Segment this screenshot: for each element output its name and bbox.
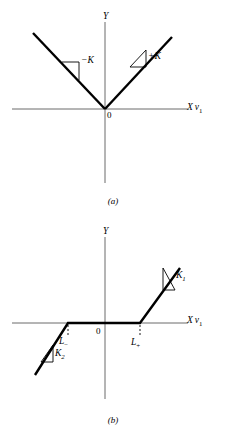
upper-gain-label: K1: [176, 271, 186, 283]
y-axis-label-b: Y: [103, 227, 108, 237]
x-axis-label-sub-b: 1: [199, 320, 202, 327]
x-axis-label-sub-a: 1: [199, 107, 202, 114]
figure-page: Y Xv1 0 −K +K (a) Y Xv1 0 K1 K2 L−: [0, 0, 226, 439]
origin-label-a: 0: [107, 111, 112, 120]
upper-gain-subscript: 1: [182, 275, 185, 282]
x-axis-label-a: Xv1: [187, 103, 202, 115]
positive-threshold-subscript: +: [136, 342, 140, 349]
slope-triangle-k2: [41, 345, 53, 362]
x-axis-label-b: Xv1: [187, 316, 202, 328]
panel-a: Y Xv1 0 −K +K (a): [0, 0, 226, 215]
negative-gain-label: −K: [81, 56, 94, 66]
slope-triangle-positive-k: [130, 50, 146, 67]
lower-gain-label: K2: [55, 349, 65, 361]
caption-b: (b): [0, 415, 226, 425]
y-axis-label-a: Y: [103, 12, 108, 22]
panel-b: Y Xv1 0 K1 K2 L− L+ (b): [0, 215, 226, 439]
x-axis-label-main-b: X: [187, 315, 193, 325]
origin-label-b: 0: [96, 327, 101, 336]
negative-threshold-label: L−: [59, 337, 68, 349]
positive-gain-label: +K: [148, 52, 161, 62]
curve-right-arm-a: [105, 37, 172, 109]
curve-left-arm-a: [33, 33, 105, 109]
caption-a: (a): [0, 196, 226, 206]
positive-threshold-label: L+: [131, 338, 140, 350]
x-axis-label-main-a: X: [187, 102, 193, 112]
negative-threshold-subscript: −: [64, 341, 68, 348]
lower-gain-subscript: 2: [61, 353, 64, 360]
